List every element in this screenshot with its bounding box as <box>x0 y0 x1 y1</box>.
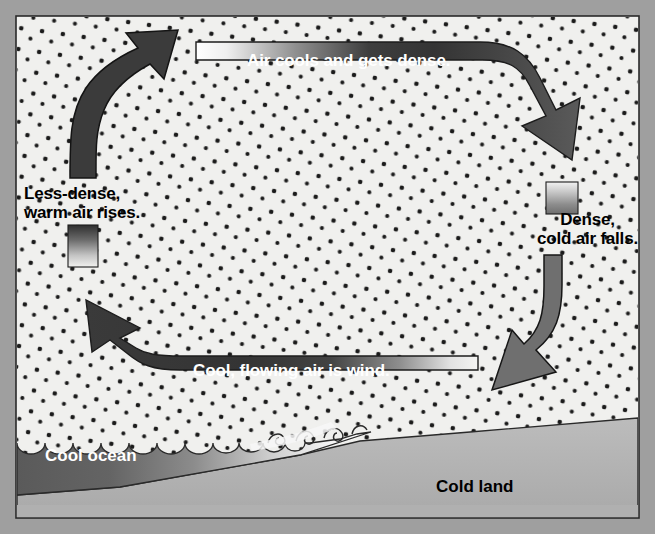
label-cool-wind: Cool, flowing air is wind. <box>193 361 390 380</box>
ground-strip <box>17 505 638 517</box>
gradient-stub-left <box>68 225 98 267</box>
label-cold-air-falls: Dense, cold air falls. <box>537 210 638 248</box>
label-warm-air-rises: Less-dense, warm air rises. <box>24 184 140 222</box>
label-cool-ocean: Cool ocean <box>45 446 137 465</box>
diagram-canvas: Less-dense, warm air rises. Dense, cold … <box>0 0 655 534</box>
label-cold-land: Cold land <box>436 477 513 496</box>
label-air-cools: Air cools and gets dense. <box>247 51 450 70</box>
